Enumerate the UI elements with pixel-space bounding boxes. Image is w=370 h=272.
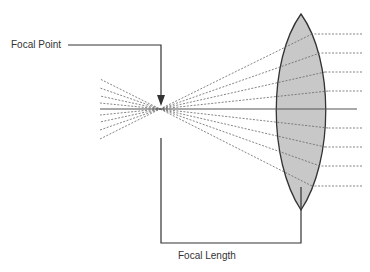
arrow-down-icon: [157, 95, 165, 106]
focal-length-label: Focal Length: [178, 250, 236, 261]
focal-point-label: Focal Point: [11, 39, 61, 50]
focal-point-leader: [68, 45, 161, 98]
